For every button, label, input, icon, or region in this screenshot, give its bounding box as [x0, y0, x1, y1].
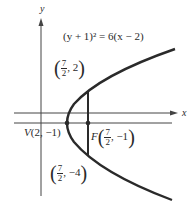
upper-point-label: (72, 2) — [54, 58, 85, 78]
lower-point-label: (72, −4) — [50, 163, 87, 183]
focus-point — [86, 121, 91, 126]
vertex-label: V(2, −1) — [24, 127, 61, 138]
equation-label: (y + 1)² = 6(x − 2) — [63, 31, 144, 42]
y-axis-arrow-icon — [39, 18, 44, 26]
x-axis-label: x — [182, 108, 186, 118]
focus-label: F(72, −1) — [91, 127, 135, 147]
vertex-point — [65, 121, 70, 126]
x-axis-arrow-icon — [170, 111, 178, 116]
y-axis-label: y — [40, 4, 44, 14]
